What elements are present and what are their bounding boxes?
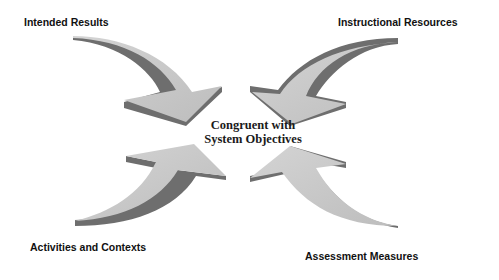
label-activities-and-contexts: Activities and Contexts <box>30 241 146 253</box>
arrow-activities-and-contexts <box>75 144 226 226</box>
congruence-diagram: Intended Results Instructional Resources… <box>0 0 499 280</box>
center-label-line2: System Objectives <box>178 132 328 146</box>
arrow-instructional-resources <box>250 38 398 126</box>
arrow-assessment-measures <box>250 146 398 228</box>
arrow-intended-results <box>73 36 222 126</box>
label-instructional-resources: Instructional Resources <box>338 16 458 28</box>
center-label-line1: Congruent with <box>178 118 328 132</box>
center-label: Congruent with System Objectives <box>178 118 328 146</box>
label-assessment-measures: Assessment Measures <box>305 250 418 262</box>
label-intended-results: Intended Results <box>24 16 109 28</box>
